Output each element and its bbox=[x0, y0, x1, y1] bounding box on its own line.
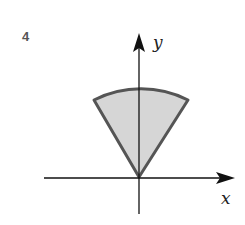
x-axis-label: x bbox=[221, 188, 231, 208]
sector-diagram: y x bbox=[0, 0, 245, 225]
shaded-sector bbox=[94, 89, 188, 177]
y-axis-label: y bbox=[152, 32, 163, 52]
